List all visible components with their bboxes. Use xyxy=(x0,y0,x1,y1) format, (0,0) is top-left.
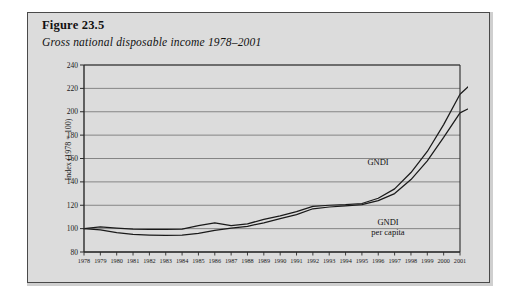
y-axis-label: Index (1978 = 100) xyxy=(64,90,73,210)
svg-text:1980: 1980 xyxy=(111,257,123,264)
chart-container: Index (1978 = 100) 801001201401601802002… xyxy=(48,57,468,279)
svg-text:1998: 1998 xyxy=(405,257,417,264)
svg-text:240: 240 xyxy=(67,61,79,70)
svg-text:1983: 1983 xyxy=(160,257,172,264)
svg-text:2001: 2001 xyxy=(454,257,466,264)
svg-text:1999: 1999 xyxy=(421,257,433,264)
svg-text:1992: 1992 xyxy=(307,257,319,264)
svg-text:1987: 1987 xyxy=(225,257,237,264)
svg-text:1989: 1989 xyxy=(258,257,270,264)
svg-text:1981: 1981 xyxy=(127,257,139,264)
svg-text:1978: 1978 xyxy=(78,257,90,264)
svg-text:1990: 1990 xyxy=(274,257,286,264)
svg-text:1994: 1994 xyxy=(339,257,351,264)
series-label-gndi-per-capita: GNDI per capita xyxy=(364,218,412,237)
svg-text:100: 100 xyxy=(67,224,79,233)
svg-text:1997: 1997 xyxy=(388,257,400,264)
line-chart: 80100120140160180200220240 1978197919801… xyxy=(48,57,468,279)
svg-text:1988: 1988 xyxy=(241,257,253,264)
figure-number-label: Figure 23.5 xyxy=(42,18,104,33)
svg-text:1979: 1979 xyxy=(94,257,106,264)
figure-box: Figure 23.5 Gross national disposable in… xyxy=(27,12,490,283)
svg-text:2000: 2000 xyxy=(437,257,449,264)
svg-text:80: 80 xyxy=(71,248,79,257)
svg-text:1982: 1982 xyxy=(143,257,155,264)
svg-text:1996: 1996 xyxy=(372,257,384,264)
svg-text:1984: 1984 xyxy=(176,257,188,264)
svg-text:1985: 1985 xyxy=(192,257,204,264)
svg-text:1995: 1995 xyxy=(356,257,368,264)
series-label-gndi: GNDI xyxy=(356,158,400,168)
figure-page: Figure 23.5 Gross national disposable in… xyxy=(0,0,516,298)
svg-text:1986: 1986 xyxy=(209,257,221,264)
x-axis-tick-labels: 1978197919801981198219831984198519861987… xyxy=(78,257,466,264)
figure-title: Gross national disposable income 1978–20… xyxy=(42,36,261,48)
svg-text:1993: 1993 xyxy=(323,257,335,264)
svg-text:1991: 1991 xyxy=(290,257,302,264)
